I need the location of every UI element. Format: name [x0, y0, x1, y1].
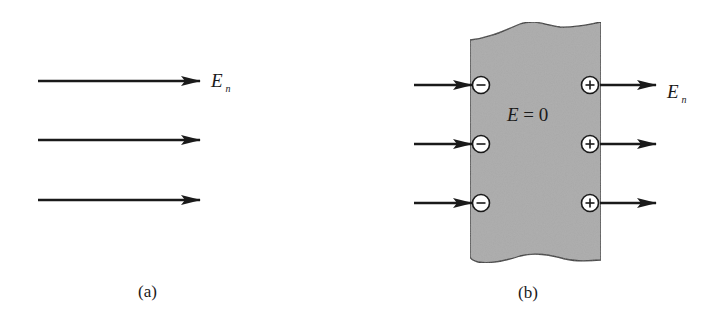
positive-charge-icon: [582, 77, 599, 94]
positive-charge-icon: [582, 195, 599, 212]
panel-a-uniform-field: [38, 81, 200, 200]
caption-b: (b): [518, 283, 538, 303]
negative-charge-icon: [473, 77, 490, 94]
field-label-b: En: [667, 81, 687, 105]
interior-field-label: E = 0: [507, 104, 548, 126]
caption-a: (a): [138, 282, 157, 302]
field-label-a: En: [211, 70, 231, 94]
negative-charge-icon: [473, 195, 490, 212]
positive-charge-icon: [582, 136, 599, 153]
figure-canvas: [0, 0, 721, 330]
negative-charge-icon: [473, 136, 490, 153]
